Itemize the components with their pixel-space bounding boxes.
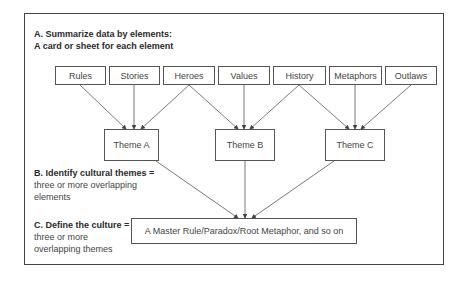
section-b-line1: three or more overlapping <box>34 179 154 191</box>
section-c-label: C. Define the culture = three or more ov… <box>34 219 129 255</box>
section-a-subtitle: A card or sheet for each element <box>34 40 173 52</box>
section-b-label: B. Identify cultural themes = three or m… <box>34 167 154 203</box>
theme-label: Theme A <box>113 140 149 150</box>
element-box-history: History <box>273 66 326 85</box>
section-b-line2: elements <box>34 191 154 203</box>
master-label: A Master Rule/Paradox/Root Metaphor, and… <box>145 226 344 236</box>
section-b-title: B. Identify cultural themes = <box>34 167 154 179</box>
element-label: Rules <box>69 71 92 81</box>
section-c-title: C. Define the culture = <box>34 219 129 231</box>
theme-box-b: Theme B <box>215 129 275 161</box>
element-label: Heroes <box>174 71 203 81</box>
section-a-heading: A. Summarize data by elements: A card or… <box>34 28 173 52</box>
element-box-metaphors: Metaphors <box>329 66 382 85</box>
section-a-title: A. Summarize data by elements: <box>34 28 173 40</box>
element-label: Metaphors <box>334 71 377 81</box>
element-box-values: Values <box>218 66 270 85</box>
theme-label: Theme B <box>227 140 264 150</box>
theme-label: Theme C <box>336 140 373 150</box>
element-box-heroes: Heroes <box>163 66 215 85</box>
element-label: Stories <box>120 71 148 81</box>
element-label: Values <box>231 71 258 81</box>
element-box-outlaws: Outlaws <box>385 66 437 85</box>
theme-box-a: Theme A <box>104 129 159 161</box>
element-box-stories: Stories <box>109 66 160 85</box>
element-label: History <box>285 71 313 81</box>
section-c-line2: overlapping themes <box>34 243 129 255</box>
section-c-line1: three or more <box>34 231 129 243</box>
element-label: Outlaws <box>395 71 428 81</box>
element-box-rules: Rules <box>55 66 106 85</box>
master-box: A Master Rule/Paradox/Root Metaphor, and… <box>131 218 357 244</box>
theme-box-c: Theme C <box>325 129 385 161</box>
